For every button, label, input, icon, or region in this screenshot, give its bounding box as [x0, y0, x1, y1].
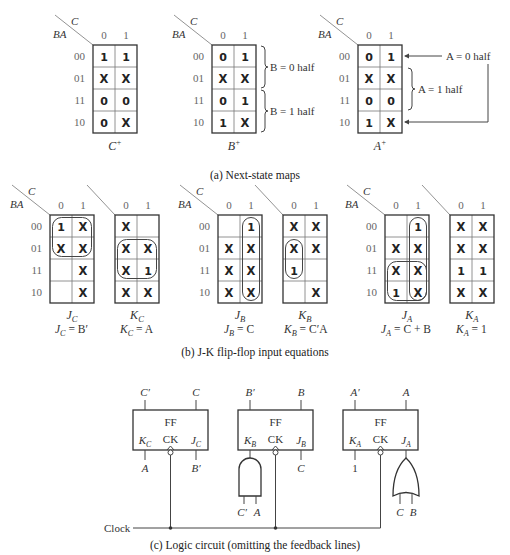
kmap-cell: 1 [144, 265, 152, 278]
col-variable-label: C [196, 185, 204, 197]
row-label: 10 [199, 286, 211, 298]
kmap-cell: X [79, 286, 88, 300]
kmap-cell: X [312, 220, 321, 234]
col-label: 1 [415, 199, 421, 211]
row-variable-label: BA [345, 198, 359, 210]
kmap-cell: X [122, 72, 131, 86]
kmap-cell: X [312, 242, 321, 256]
flip-flop-FF_A: FFCKKAJAA′A1CB [343, 386, 419, 528]
row-label: 10 [31, 286, 43, 298]
equation-JB: JB = C [224, 323, 254, 338]
kmap-cell: X [290, 220, 299, 234]
clock-label: Clock [104, 522, 131, 534]
kmap-cell: 1 [365, 117, 373, 130]
col-label: 0 [101, 29, 107, 41]
k-input-source-label: 1 [352, 462, 358, 474]
kmap-title: KC [129, 308, 144, 324]
jk-input-maps: CBA00011110011XXXXXJC01XXXX1XXKCCBA00011… [10, 185, 494, 338]
kmap-cell: X [312, 286, 321, 300]
kmap-title: KA [464, 308, 479, 324]
brace-a1-half [408, 68, 415, 110]
logic-circuit: FFCKKCJCC′CAB′FFCKKBJBB′BC′ACFFCKKAJAA′A… [104, 386, 419, 534]
kmap-cell: 0 [122, 95, 130, 108]
ck-label: CK [163, 433, 178, 445]
equation-JC: JC = B′ [55, 323, 88, 338]
kmap-cell: 0 [365, 51, 373, 64]
row-label: 11 [339, 94, 350, 106]
kmap-B_next: CBA000111100101XX011XB+ [172, 15, 256, 153]
kmap-cell: 1 [247, 221, 255, 234]
kmap-cell: 0 [219, 51, 227, 64]
kmap-cell: X [387, 72, 396, 86]
kmap-cell: X [79, 242, 88, 256]
q-output-label: B [298, 386, 305, 398]
kmap-cell: 0 [219, 95, 227, 108]
brace-b1-half [261, 90, 268, 132]
row-label: 01 [31, 242, 42, 254]
and-input-label: C′ [237, 506, 247, 518]
kmap-cell: 1 [241, 51, 249, 64]
row-label: 01 [199, 242, 210, 254]
or-gate-icon [393, 458, 419, 496]
row-label: 10 [193, 116, 205, 128]
kmap-KA: 01XXXX11XXKA [422, 185, 494, 324]
kmap-cell: X [387, 116, 396, 130]
kmap-cell: X [241, 116, 250, 130]
k-input-label: KC [138, 434, 152, 449]
kmap-cell: 0 [365, 95, 373, 108]
ck-label: CK [268, 433, 283, 445]
ff-label: FF [374, 416, 386, 428]
kmap-cell: X [457, 286, 466, 300]
ff-label: FF [164, 416, 176, 428]
kmap-cell: X [79, 264, 88, 278]
col-label: 1 [313, 199, 319, 211]
j-input-source-label: C [297, 462, 305, 474]
and-gate-icon [239, 458, 261, 496]
kmap-cell: 1 [387, 51, 395, 64]
col-label: 1 [123, 29, 129, 41]
col-label: 0 [226, 199, 232, 211]
row-label: 00 [366, 220, 378, 232]
arrowhead-icon [404, 54, 409, 59]
row-label: 10 [74, 116, 86, 128]
row-label: 00 [31, 220, 43, 232]
kmap-cell: 1 [392, 287, 400, 300]
col-variable-label: C [28, 185, 36, 197]
and-input-label: A [253, 506, 261, 518]
kmap-cell: X [225, 286, 234, 300]
col-variable-label: C [71, 15, 79, 27]
kmap-cell: X [392, 242, 401, 256]
col-label: 1 [248, 199, 254, 211]
wire-junction-dot [274, 526, 278, 530]
col-label: 0 [123, 199, 129, 211]
kmap-cell: X [479, 242, 488, 256]
kmap-cell: X [414, 286, 423, 300]
q-bar-output-label: B′ [245, 386, 255, 398]
kmap-cell: X [247, 242, 256, 256]
kmap-cell: X [290, 242, 299, 256]
kmap-cell: X [122, 116, 131, 130]
kmap-title: JB [235, 308, 246, 324]
kmap-cell: 0 [387, 95, 395, 108]
kmap-cell: X [122, 264, 131, 278]
arrowhead-icon [404, 120, 409, 125]
ff-label: FF [269, 416, 281, 428]
kmap-diagonal [255, 185, 283, 215]
row-label: 11 [366, 264, 377, 276]
wire-junction-dot [169, 526, 173, 530]
kmap-cell: X [414, 264, 423, 278]
k-input-source-label: A [141, 462, 149, 474]
row-label: 01 [193, 72, 204, 84]
annotation-a1-half: A = 1 half [418, 83, 463, 95]
row-label: 10 [366, 286, 378, 298]
annotation-b0-half: B = 0 half [270, 61, 315, 73]
kmap-cell: 1 [100, 51, 108, 64]
row-label: 00 [74, 50, 86, 62]
kmap-cell: X [365, 72, 374, 86]
k-input-label: KB [243, 434, 256, 449]
col-variable-label: C [363, 185, 371, 197]
k-input-label: KA [348, 434, 361, 449]
kmap-cell: 1 [241, 95, 249, 108]
kmap-JB: CBA00011110011XXXXXXJB [178, 185, 262, 324]
j-input-label: JB [296, 434, 306, 449]
